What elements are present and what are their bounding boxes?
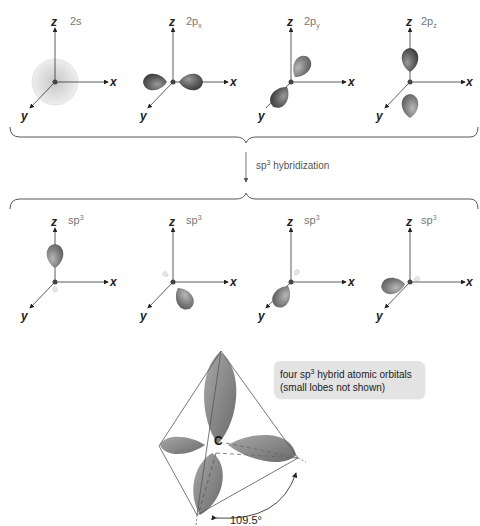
z-axis-label: z [405, 215, 412, 229]
small-lobe [162, 271, 169, 278]
y-axis-label: y [20, 309, 29, 323]
x-axis-label: x [465, 275, 474, 289]
z-axis-label: z [50, 15, 57, 29]
z-axis-label: z [286, 15, 293, 29]
small-lobe [53, 286, 58, 292]
z-axis-label: z [168, 15, 175, 29]
orbital-label: sp3 [68, 214, 84, 226]
large-lobe [47, 244, 64, 268]
x-axis-label: x [465, 75, 474, 89]
lobe-right [228, 435, 296, 462]
bottom-brace [10, 193, 478, 209]
orbital-label: sp3 [186, 214, 202, 226]
y-axis-label: y [139, 309, 148, 323]
y-axis-label: y [139, 109, 148, 123]
large-lobe [380, 276, 406, 296]
small-lobe [293, 269, 300, 276]
y-axis-label: y [375, 309, 384, 323]
y-axis-label: y [257, 109, 266, 123]
small-lobe [413, 276, 420, 282]
lobe-back-y [288, 52, 315, 81]
orbital-2py: z x y 2py [257, 15, 356, 123]
lobe-positive-x [179, 74, 203, 91]
x-axis-label: x [109, 75, 118, 89]
callout-box: four sp3 hybrid atomic orbitals (small l… [274, 361, 424, 398]
y-axis-label: y [257, 309, 266, 323]
orbital-2s: z x y 2s [20, 15, 118, 123]
lobe-negative-z [402, 94, 419, 118]
lobe-front-y [266, 82, 293, 111]
lobe-left [160, 437, 205, 454]
callout-line-2: (small lobes not shown) [280, 381, 418, 394]
z-axis-label: z [50, 215, 57, 229]
x-axis-label: x [347, 275, 356, 289]
large-lobe [269, 282, 295, 311]
hybridization-diagram: z x y 2s z x y 2px z x y 2py z [0, 0, 480, 526]
lobe-negative-x [143, 74, 167, 91]
x-axis-label: x [109, 275, 118, 289]
orbital-label: sp3 [304, 214, 320, 226]
sp3-orbital-4: z x y sp3 [375, 214, 474, 323]
sp3-orbital-2: z x y sp3 [139, 214, 238, 323]
callout-line-1: four sp3 hybrid atomic orbitals [280, 365, 418, 381]
orbital-label: 2pz [421, 15, 437, 29]
x-axis-label: x [347, 75, 356, 89]
z-axis-label: z [405, 15, 412, 29]
y-axis-label: y [20, 109, 29, 123]
lobe-bottom [193, 453, 223, 515]
orbital-label: 2s [70, 15, 82, 27]
y-axis-label: y [375, 109, 384, 123]
large-lobe [171, 284, 197, 313]
z-axis-label: z [168, 215, 175, 229]
sp3-orbital-3: z x y sp3 [257, 214, 356, 323]
orbital-label: 2px [186, 15, 202, 29]
orbital-label: sp3 [421, 214, 437, 226]
sp3-orbital-1: z x y sp3 [20, 214, 118, 323]
orbital-label: 2py [304, 15, 320, 30]
lobe-positive-z [402, 48, 419, 72]
angle-arc [216, 473, 296, 518]
x-axis-label: x [229, 275, 238, 289]
top-brace [10, 127, 478, 143]
orbital-2pz: z x y 2pz [375, 15, 474, 123]
x-axis-label: x [229, 75, 238, 89]
orbital-2px: z x y 2px [139, 15, 238, 123]
hybridization-label: sp3 hybridization [256, 159, 329, 171]
z-axis-label: z [286, 215, 293, 229]
angle-label: 109.5° [230, 514, 262, 526]
carbon-label: C [214, 434, 223, 448]
